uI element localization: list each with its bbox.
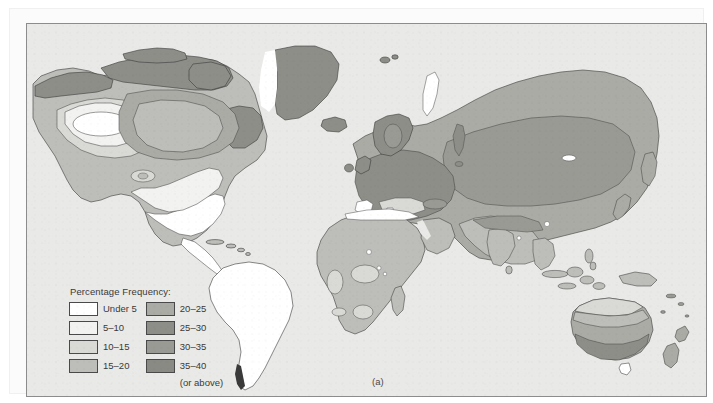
legend-swatch-35-40 — [146, 359, 175, 373]
legend-swatch-under-5 — [69, 302, 98, 316]
legend-swatch-20-25 — [146, 302, 175, 316]
na-inner-oval-west-core — [138, 173, 148, 179]
na-arctic-band-east — [189, 62, 231, 90]
legend-item-5-10[interactable]: 5–10 — [69, 320, 137, 335]
africa-patch-central — [351, 265, 379, 283]
kara-small-spot — [455, 162, 463, 167]
legend-title: Percentage Frequency: — [70, 286, 245, 297]
figure-inner-frame: Percentage Frequency: Under 5 5–10 — [26, 23, 707, 397]
africa-spot-1 — [367, 250, 372, 255]
asia-spot-1 — [544, 221, 549, 226]
legend-swatch-15-20 — [69, 359, 98, 373]
legend-column-left: Under 5 5–10 10–15 15–20 — [69, 301, 137, 388]
legend-or-above-note: (or above) — [180, 378, 223, 388]
figure-page: Percentage Frequency: Under 5 5–10 — [0, 0, 713, 403]
legend-item-25-30[interactable]: 25–30 — [146, 320, 223, 335]
legend-label-under-5: Under 5 — [103, 304, 137, 314]
legend-item-30-35[interactable]: 30–35 — [146, 339, 223, 354]
legend-label-10-15: 10–15 — [103, 342, 129, 352]
legend-column-right: 20–25 25–30 30–35 35–40 — [146, 301, 223, 388]
legend-item-10-15[interactable]: 10–15 — [69, 339, 137, 354]
africa-spot-3 — [383, 272, 387, 276]
black-sea-zone — [423, 199, 447, 209]
legend-label-15-20: 15–20 — [103, 361, 129, 371]
africa-patch-south — [353, 305, 373, 319]
legend-label-20-25: 20–25 — [180, 304, 206, 314]
legend-swatch-10-15 — [69, 340, 98, 354]
legend-swatch-5-10 — [69, 321, 98, 335]
africa-patch-sw — [332, 308, 346, 316]
africa-patch-west — [327, 270, 343, 294]
sri-lanka — [506, 266, 512, 274]
siberia-under5-spot — [562, 155, 576, 161]
asia-spot-2 — [517, 236, 521, 240]
legend-label-35-40: 35–40 — [180, 361, 206, 371]
ireland — [345, 164, 354, 172]
legend-label-30-35: 30–35 — [180, 342, 206, 352]
legend-swatch-25-30 — [146, 321, 175, 335]
legend-item-20-25[interactable]: 20–25 — [146, 301, 223, 316]
legend-label-25-30: 25–30 — [180, 323, 206, 333]
legend-item-15-20[interactable]: 15–20 — [69, 358, 137, 373]
legend-label-5-10: 5–10 — [103, 323, 124, 333]
scandinavia-inner-band — [384, 124, 402, 148]
legend-swatch-30-35 — [146, 340, 175, 354]
legend-item-under-5[interactable]: Under 5 — [69, 301, 137, 316]
africa-spot-2 — [377, 266, 381, 270]
map-legend: Percentage Frequency: Under 5 5–10 — [69, 286, 245, 388]
legend-item-35-40[interactable]: 35–40 — [146, 358, 223, 373]
panel-label: (a) — [372, 376, 384, 387]
figure-outer-frame: Percentage Frequency: Under 5 5–10 — [9, 8, 704, 394]
